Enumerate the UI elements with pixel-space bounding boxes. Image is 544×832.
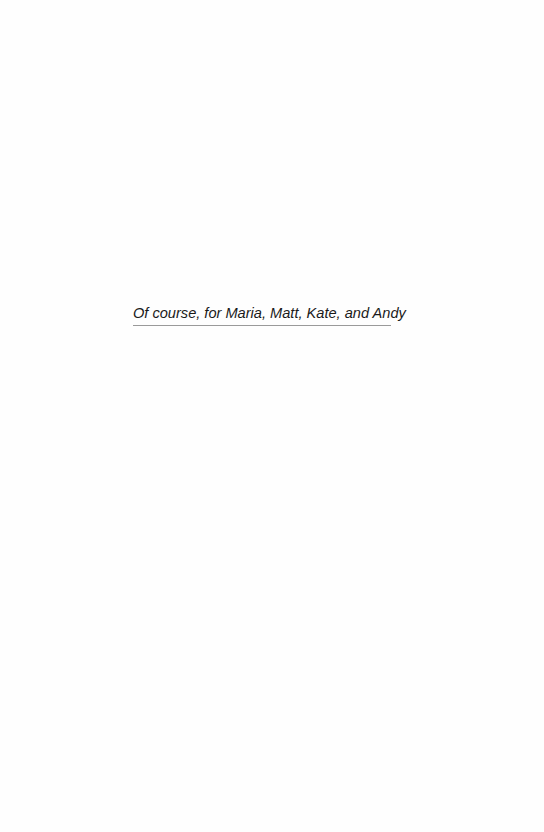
dedication-text: Of course, for Maria, Matt, Kate, and An… xyxy=(133,304,391,322)
book-page: Of course, for Maria, Matt, Kate, and An… xyxy=(0,0,544,832)
dedication-block: Of course, for Maria, Matt, Kate, and An… xyxy=(133,304,391,326)
dedication-underline-rule xyxy=(133,325,391,326)
